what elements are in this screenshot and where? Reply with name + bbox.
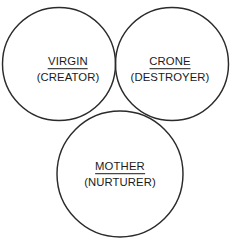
triple-goddess-diagram: VIRGIN (CREATOR) CRONE (DESTROYER) MOTHE… [0,0,236,251]
circle-mother [57,111,183,237]
circle-crone [116,8,229,121]
venn-diagram-canvas [0,0,236,251]
circle-virgin [3,8,116,121]
